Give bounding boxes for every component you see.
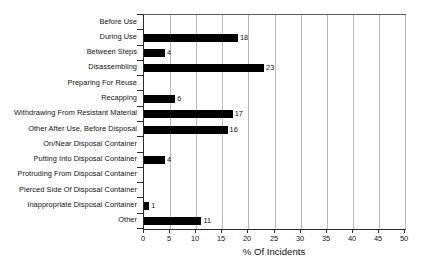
x-axis-tick	[326, 229, 327, 233]
category-row: Protruding From Disposal Container	[0, 167, 141, 182]
category-row: Other	[0, 213, 141, 228]
category-row: Withdrawing From Resistant Material	[0, 106, 141, 121]
x-axis-tick-label: 25	[270, 234, 278, 244]
bar-row: 17	[144, 107, 405, 122]
x-axis-tick	[404, 229, 405, 233]
bar	[144, 34, 238, 42]
category-label: During Use	[100, 33, 137, 41]
category-axis: Before UseDuring UseBetween StepsDisasse…	[0, 14, 141, 228]
bar	[144, 49, 165, 57]
category-label: On/Near Disposal Container	[43, 140, 137, 148]
category-label: Pierced Side Of Disposal Container	[19, 186, 137, 194]
category-label: Other	[118, 216, 137, 224]
category-label: Preparing For Reuse	[67, 79, 137, 87]
x-axis-tick-labels: 05101520253035404550	[143, 234, 405, 245]
x-axis-tick	[300, 229, 301, 233]
category-label: Inappropriate Disposal Container	[27, 201, 137, 209]
bar-value-label: 18	[240, 34, 248, 42]
category-label: Disassembling	[88, 63, 137, 71]
bar-value-label: 11	[203, 217, 211, 225]
category-row: Pierced Side Of Disposal Container	[0, 182, 141, 197]
bar	[144, 156, 165, 164]
bar-value-label: 6	[177, 95, 181, 103]
category-row: Between Steps	[0, 45, 141, 60]
x-axis-tick-label: 5	[167, 234, 171, 244]
x-axis-tick	[221, 229, 222, 233]
bar	[144, 126, 228, 134]
x-axis-tick-label: 0	[141, 234, 145, 244]
x-axis-tick	[274, 229, 275, 233]
bar-value-label: 16	[230, 126, 238, 134]
bar-value-label: 17	[235, 110, 243, 118]
category-row: During Use	[0, 29, 141, 44]
x-axis-tick-label: 20	[243, 234, 251, 244]
bar-value-label: 4	[167, 49, 171, 57]
bar-row: 4	[144, 46, 405, 61]
x-axis-tick-label: 30	[296, 234, 304, 244]
bar-row	[144, 15, 405, 30]
bars-layer: 18423617164111	[144, 15, 405, 229]
bar-value-label: 1	[151, 202, 155, 210]
bar-row	[144, 168, 405, 183]
x-axis-tick	[143, 229, 144, 233]
category-row: Before Use	[0, 14, 141, 29]
x-axis-tick	[352, 229, 353, 233]
x-axis-tick-label: 35	[322, 234, 330, 244]
bar-value-label: 23	[266, 64, 274, 72]
plot-area: 18423617164111	[143, 14, 406, 230]
category-row: Recapping	[0, 90, 141, 105]
category-row: On/Near Disposal Container	[0, 136, 141, 151]
x-axis-tick-label: 45	[374, 234, 382, 244]
x-axis-tick-label: 50	[400, 234, 408, 244]
bar	[144, 95, 175, 103]
x-axis-title: % Of Incidents	[143, 246, 405, 258]
category-label: Protruding From Disposal Container	[17, 170, 137, 178]
category-row: Putting Into Disposal Container	[0, 152, 141, 167]
bar-row: 16	[144, 122, 405, 137]
x-axis-tick	[378, 229, 379, 233]
x-axis-tick	[247, 229, 248, 233]
category-row: Preparing For Reuse	[0, 75, 141, 90]
category-label: Recapping	[101, 94, 137, 102]
category-label: Other After Use, Before Disposal	[28, 125, 137, 133]
bar-row: 18	[144, 30, 405, 45]
category-row: Other After Use, Before Disposal	[0, 121, 141, 136]
x-axis-tick-label: 40	[348, 234, 356, 244]
bar-row: 1	[144, 198, 405, 213]
bar-row	[144, 137, 405, 152]
gridline	[405, 15, 406, 229]
x-axis-tick-label: 15	[217, 234, 225, 244]
bar-row: 4	[144, 153, 405, 168]
bar	[144, 110, 233, 118]
category-label: Withdrawing From Resistant Material	[14, 109, 137, 117]
category-row: Inappropriate Disposal Container	[0, 197, 141, 212]
bar-row: 11	[144, 214, 405, 229]
bar-row: 6	[144, 91, 405, 106]
bar-chart: Before UseDuring UseBetween StepsDisasse…	[0, 0, 426, 265]
bar	[144, 217, 201, 225]
x-axis-tick	[169, 229, 170, 233]
category-label: Putting Into Disposal Container	[34, 155, 137, 163]
bar-row	[144, 76, 405, 91]
bar	[144, 202, 149, 210]
x-axis-tick	[195, 229, 196, 233]
bar	[144, 64, 264, 72]
bar-row: 23	[144, 61, 405, 76]
bar-row	[144, 183, 405, 198]
category-label: Between Steps	[87, 48, 137, 56]
x-axis-tick-label: 10	[191, 234, 199, 244]
category-row: Disassembling	[0, 60, 141, 75]
category-label: Before Use	[100, 18, 137, 26]
bar-value-label: 4	[167, 156, 171, 164]
